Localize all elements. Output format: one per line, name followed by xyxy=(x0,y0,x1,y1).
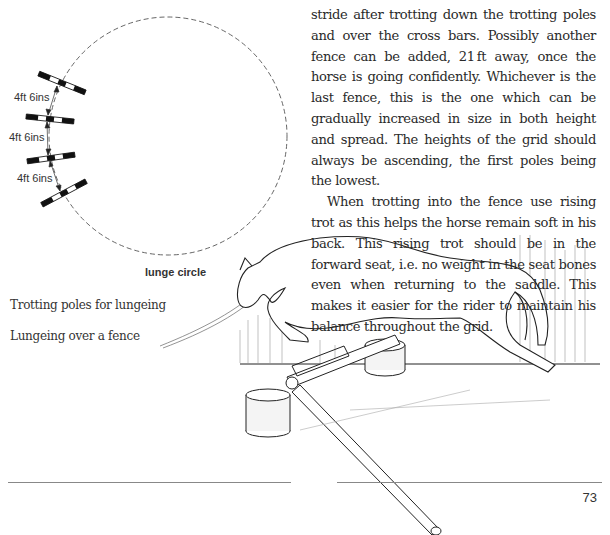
caption-trotting-poles: Trotting poles for lungeing xyxy=(10,298,166,312)
jump-fence xyxy=(246,335,441,535)
paragraph-1: stride after trotting down the trotting … xyxy=(311,5,596,192)
paragraph-2: When trotting into the fence use rising … xyxy=(311,192,596,338)
lunge-circle xyxy=(49,17,287,255)
footer-rule-left xyxy=(8,482,291,483)
lunge-circle-label: lunge circle xyxy=(145,266,206,278)
distance-label-3: 4ft 6ins xyxy=(17,172,52,184)
caption-lungeing-fence: Lungeing over a fence xyxy=(10,329,140,343)
body-text: stride after trotting down the trotting … xyxy=(311,5,596,338)
page-number: 73 xyxy=(583,490,597,505)
distance-label-1: 4ft 6ins xyxy=(14,91,49,103)
footer-rule-right xyxy=(337,482,602,483)
distance-label-2: 4ft 6ins xyxy=(9,131,44,143)
